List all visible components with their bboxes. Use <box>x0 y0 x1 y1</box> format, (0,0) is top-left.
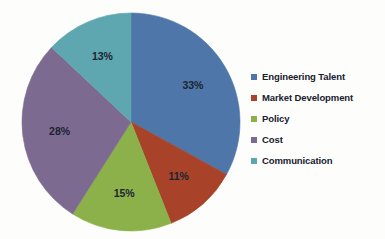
pie-slice-label-policy: 15% <box>114 187 136 199</box>
pie-chart-area: 33%11%15%28%13% <box>0 0 250 239</box>
legend-swatch-communication-icon <box>251 158 257 164</box>
legend-item-label: Communication <box>262 155 332 166</box>
legend-swatch-market-development-icon <box>251 95 257 101</box>
pie-slice-label-market-development: 11% <box>168 170 189 182</box>
pie-chart-svg[interactable]: 33%11%15%28%13% <box>0 0 250 239</box>
legend-item-label: Market Development <box>262 92 353 103</box>
legend-item-communication[interactable]: Communication <box>251 150 385 171</box>
pie-chart-screenshot: 33%11%15%28%13% Engineering TalentMarket… <box>0 0 385 239</box>
legend-item-policy[interactable]: Policy <box>251 108 385 129</box>
legend-item-label: Policy <box>262 113 289 124</box>
chart-legend: Engineering TalentMarket DevelopmentPoli… <box>251 66 385 171</box>
legend-item-label: Engineering Talent <box>262 71 345 82</box>
legend-item-market-development[interactable]: Market Development <box>251 87 385 108</box>
legend-swatch-cost-icon <box>251 137 257 143</box>
legend-swatch-engineering-talent-icon <box>251 74 257 80</box>
legend-item-engineering-talent[interactable]: Engineering Talent <box>251 66 385 87</box>
legend-item-label: Cost <box>262 134 283 145</box>
pie-slice-label-engineering-talent: 33% <box>182 79 204 91</box>
pie-slice-label-cost: 28% <box>49 125 71 137</box>
pie-slice-label-communication: 13% <box>92 50 114 62</box>
legend-swatch-policy-icon <box>251 116 257 122</box>
legend-item-cost[interactable]: Cost <box>251 129 385 150</box>
